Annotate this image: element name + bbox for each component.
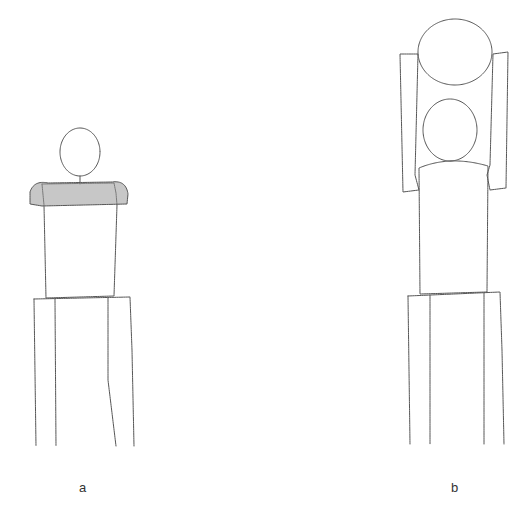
figure-b-torso <box>419 161 488 294</box>
figure-b-arm-right <box>487 52 508 190</box>
figure-a-shoulders <box>30 182 128 206</box>
panel-label-a: a <box>79 480 86 495</box>
figure-b-head-lower <box>423 99 477 161</box>
figure-b-arm-left <box>400 54 419 192</box>
sketch-drawing <box>0 0 528 515</box>
figure-b-head-top <box>418 19 492 85</box>
figure-b-legs <box>408 292 504 444</box>
panel-label-b: b <box>451 480 458 495</box>
figure-a <box>30 128 134 446</box>
figure-b <box>400 19 508 444</box>
figure-a-head <box>60 128 100 176</box>
figure-a-legs <box>34 297 134 446</box>
